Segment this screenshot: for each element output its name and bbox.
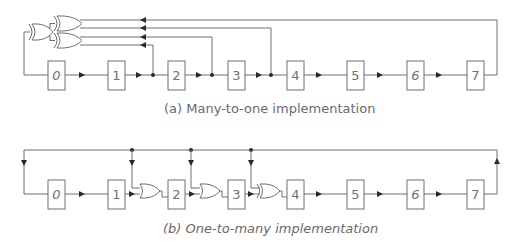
svg-text:4: 4 — [291, 187, 299, 202]
panel-a-many-to-one: 0 1 2 3 4 5 6 7 — [24, 16, 497, 90]
arrow-icon — [436, 72, 442, 78]
svg-text:0: 0 — [52, 187, 60, 202]
register-5: 5 — [347, 61, 364, 90]
svg-text:6: 6 — [411, 68, 419, 83]
svg-text:7: 7 — [471, 68, 479, 83]
register-4: 4 — [287, 61, 304, 90]
svg-text:3: 3 — [232, 68, 240, 83]
junction-dot — [210, 73, 214, 77]
register-6: 6 — [407, 180, 424, 209]
register-3: 3 — [228, 180, 245, 209]
arrow-icon — [256, 72, 262, 78]
xor-gate-after-3 — [257, 184, 280, 198]
svg-text:7: 7 — [471, 187, 479, 202]
register-1: 1 — [108, 61, 125, 90]
register-4: 4 — [287, 180, 304, 209]
feedback-bus-b — [24, 150, 497, 194]
arrow-icon — [140, 17, 146, 23]
svg-text:4: 4 — [291, 68, 299, 83]
arrow-icon — [129, 160, 135, 166]
arrow-icon — [316, 72, 322, 78]
xor-gate-upper — [54, 16, 82, 31]
arrow-icon — [436, 191, 442, 197]
shift-chain-a — [24, 72, 497, 78]
arrow-icon — [189, 191, 195, 197]
caption-panel-a: (a) Many-to-one implementation — [164, 101, 375, 116]
arrow-icon — [377, 191, 383, 197]
junction-dot — [151, 73, 155, 77]
arrow-icon — [136, 72, 142, 78]
svg-text:5: 5 — [351, 68, 359, 83]
arrow-icon — [316, 191, 322, 197]
arrow-icon — [129, 191, 135, 197]
register-3: 3 — [228, 61, 245, 90]
svg-text:2: 2 — [172, 187, 180, 202]
svg-text:0: 0 — [52, 68, 60, 83]
arrow-icon — [377, 72, 383, 78]
arrow-icon — [79, 191, 85, 197]
svg-text:6: 6 — [411, 187, 419, 202]
caption-panel-b: (b) One-to-many implementation — [163, 221, 378, 236]
register-1: 1 — [108, 180, 125, 209]
panel-b-one-to-many: 0 1 2 3 4 5 6 7 — [21, 148, 500, 209]
register-0: 0 — [48, 61, 65, 90]
xor-gate-after-2 — [200, 184, 220, 198]
svg-text:3: 3 — [232, 187, 240, 202]
register-2: 2 — [168, 180, 185, 209]
svg-text:1: 1 — [112, 68, 120, 83]
register-6: 6 — [407, 61, 424, 90]
arrow-icon — [79, 72, 85, 78]
arrow-icon — [21, 160, 27, 166]
lfsr-diagram: 0 1 2 3 4 5 6 7 — [0, 0, 521, 248]
svg-text:2: 2 — [172, 68, 180, 83]
arrow-icon — [196, 72, 202, 78]
arrow-icon — [140, 42, 146, 48]
xor-gate-lower — [54, 33, 82, 48]
register-7: 7 — [467, 180, 484, 209]
arrow-icon — [248, 160, 254, 166]
junction-dot — [269, 73, 273, 77]
register-7: 7 — [467, 61, 484, 90]
arrow-icon — [494, 158, 500, 164]
arrow-icon — [188, 160, 194, 166]
svg-text:1: 1 — [112, 187, 120, 202]
arrow-icon — [140, 34, 146, 40]
xor-gate-final — [29, 24, 53, 40]
register-0: 0 — [48, 180, 65, 209]
register-2: 2 — [168, 61, 185, 90]
register-5: 5 — [347, 180, 364, 209]
svg-text:5: 5 — [351, 187, 359, 202]
xor-gate-after-1 — [140, 184, 160, 198]
arrow-icon — [248, 191, 254, 197]
arrow-icon — [140, 25, 146, 31]
